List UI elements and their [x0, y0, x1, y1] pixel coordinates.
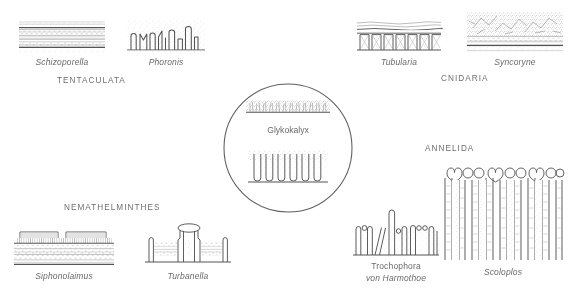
- taxon-label-nemathelminthes: NEMATHELMINTHES: [64, 203, 161, 212]
- siphonolaimus-micrograph: [14, 222, 114, 268]
- caption-trochophora-line2: von Harmothoe: [353, 273, 439, 284]
- glykokalyx-top-micrograph: [246, 100, 330, 112]
- specimen-scoloplos: Scoloplos: [443, 164, 563, 278]
- center-circle-group: Glykokalyx: [222, 82, 354, 214]
- turbanella-micrograph: [145, 222, 231, 268]
- specimen-trochophora: Trochophora von Harmothoe: [353, 207, 439, 283]
- specimen-siphonolaimus: Siphonolaimus: [14, 222, 114, 282]
- trochophora-micrograph: [353, 207, 439, 259]
- tubularia-micrograph: [357, 20, 441, 54]
- phoronis-micrograph: [127, 20, 205, 54]
- glykokalyx-circle: Glykokalyx: [222, 82, 354, 214]
- specimen-tubularia: Tubularia: [357, 20, 441, 68]
- taxon-label-cnidaria: CNIDARIA: [441, 74, 489, 83]
- specimen-syncoryne: Syncoryne: [467, 12, 563, 68]
- taxon-label-annelida: ANNELIDA: [425, 144, 474, 153]
- caption-turbanella: Turbanella: [145, 271, 231, 282]
- caption-siphonolaimus: Siphonolaimus: [14, 271, 114, 282]
- caption-syncoryne: Syncoryne: [467, 57, 563, 68]
- figure-canvas: Schizoporella Phoronis: [0, 0, 574, 300]
- caption-scoloplos: Scoloplos: [443, 267, 563, 278]
- caption-schizoporella: Schizoporella: [18, 57, 106, 68]
- glykokalyx-label-svg: Glykokalyx: [267, 125, 309, 135]
- taxon-label-tentaculata: TENTACULATA: [57, 76, 126, 85]
- caption-phoronis: Phoronis: [127, 57, 205, 68]
- specimen-turbanella: Turbanella: [145, 222, 231, 282]
- caption-trochophora-line1: Trochophora: [353, 261, 439, 272]
- glykokalyx-bottom-micrograph: [248, 150, 328, 182]
- specimen-schizoporella: Schizoporella: [18, 20, 106, 68]
- scoloplos-micrograph: [443, 164, 563, 266]
- schizoporella-micrograph: [18, 20, 106, 54]
- specimen-phoronis: Phoronis: [127, 20, 205, 68]
- syncoryne-micrograph: [467, 12, 563, 54]
- caption-tubularia: Tubularia: [357, 57, 441, 68]
